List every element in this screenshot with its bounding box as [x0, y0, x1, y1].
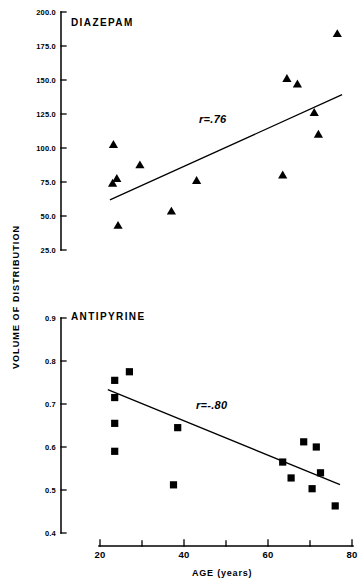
- data-point-triangle: [109, 140, 118, 148]
- y-tick-label: 150.0: [8, 76, 56, 85]
- data-point-triangle: [314, 130, 323, 138]
- data-point-square: [111, 394, 118, 401]
- data-point-square: [288, 474, 295, 481]
- y-tick-label: 0.8: [8, 357, 56, 366]
- data-point-triangle: [112, 174, 121, 182]
- figure-panel: VOLUME OF DISTRIBUTION DIAZEPAM ANTIPYRI…: [0, 0, 364, 586]
- y-tick-label: 0.5: [8, 486, 56, 495]
- data-point-square: [170, 481, 177, 488]
- x-tick-label: 40: [174, 549, 194, 560]
- data-point-triangle: [293, 79, 302, 87]
- data-point-square: [279, 458, 286, 465]
- y-tick-label: 0.6: [8, 443, 56, 452]
- y-tick-label: 0.9: [8, 314, 56, 323]
- x-tick-label: 20: [90, 549, 110, 560]
- y-tick-label: 75.0: [8, 178, 56, 187]
- regression-line-diazepam: [111, 95, 342, 200]
- data-point-triangle: [167, 207, 176, 215]
- data-point-square: [313, 443, 320, 450]
- x-tick-label: 60: [258, 549, 278, 560]
- y-tick-label: 0.4: [8, 529, 56, 538]
- y-tick-label: 0.7: [8, 400, 56, 409]
- data-point-square: [111, 420, 118, 427]
- y-tick-label: 125.0: [8, 110, 56, 119]
- data-point-square: [317, 469, 324, 476]
- data-point-square: [126, 368, 133, 375]
- data-point-square: [111, 377, 118, 384]
- data-point-triangle: [333, 29, 342, 37]
- y-tick-label: 200.0: [8, 8, 56, 17]
- y-tick-label: 50.0: [8, 212, 56, 221]
- plot-canvas: [0, 0, 364, 586]
- y-tick-label: 25.0: [8, 246, 56, 255]
- data-point-square: [332, 502, 339, 509]
- regression-line-antipyrine: [108, 390, 339, 485]
- data-point-triangle: [282, 74, 291, 82]
- x-tick-label: 80: [342, 549, 362, 560]
- data-point-triangle: [192, 176, 201, 184]
- data-point-triangle: [135, 160, 144, 168]
- data-point-triangle: [278, 171, 287, 179]
- y-tick-label: 175.0: [8, 42, 56, 51]
- data-point-square: [174, 424, 181, 431]
- data-point-triangle: [113, 221, 122, 229]
- data-point-square: [111, 448, 118, 455]
- y-tick-label: 100.0: [8, 144, 56, 153]
- data-point-square: [309, 485, 316, 492]
- data-point-square: [300, 438, 307, 445]
